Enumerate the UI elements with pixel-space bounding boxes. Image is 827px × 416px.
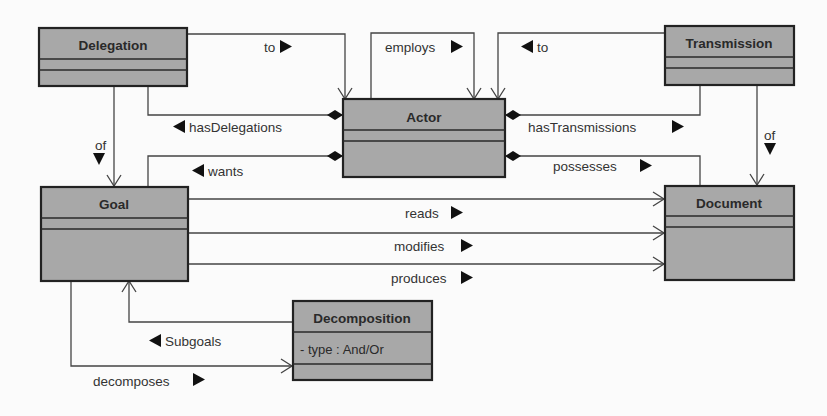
- direction-left-icon: [173, 120, 185, 133]
- direction-right-icon: [280, 40, 292, 53]
- class-actor[interactable]: Actor: [343, 99, 505, 177]
- class-name: Actor: [406, 110, 442, 125]
- edge-delegation-of-goal: of: [93, 86, 121, 186]
- edge-actor-wants: wants: [148, 151, 343, 186]
- class-goal[interactable]: Goal: [41, 187, 188, 281]
- edge-label: decomposes: [93, 374, 170, 389]
- edge-actor-hastransmissions: hasTransmissions: [505, 85, 700, 135]
- class-document[interactable]: Document: [665, 186, 794, 280]
- direction-right-icon: [461, 271, 473, 284]
- direction-right-icon: [451, 206, 463, 219]
- direction-down-icon: [93, 153, 105, 165]
- edge-label: modifies: [394, 239, 445, 254]
- class-name: Delegation: [78, 38, 147, 53]
- edge-label: Subgoals: [165, 334, 222, 349]
- class-name: Document: [696, 196, 763, 211]
- class-name: Decomposition: [313, 311, 411, 326]
- edge-actor-hasdelegations: hasDelegations: [148, 86, 343, 135]
- edge-label: to: [537, 40, 548, 55]
- direction-left-icon: [521, 40, 533, 53]
- edge-goal-reads-document: reads: [188, 192, 664, 221]
- edge-label: hasDelegations: [189, 120, 282, 135]
- direction-right-icon: [461, 239, 473, 252]
- direction-right-icon: [640, 159, 652, 172]
- class-name: Transmission: [685, 36, 772, 51]
- class-delegation[interactable]: Delegation: [39, 28, 187, 86]
- edge-label: employs: [385, 40, 436, 55]
- edge-label: reads: [405, 206, 439, 221]
- edge-goal-produces-document: produces: [188, 257, 664, 286]
- edge-label: produces: [391, 271, 447, 286]
- edge-goal-modifies-document: modifies: [188, 226, 664, 254]
- edge-transmission-of-document: of: [750, 85, 776, 185]
- edge-label: of: [95, 138, 107, 153]
- uml-class-diagram: Actor (top) --> to employs Actor --> to …: [0, 0, 827, 416]
- edge-decomposition-subgoals-goal: Subgoals: [122, 281, 292, 349]
- edge-actor-possesses: possesses: [505, 151, 700, 185]
- direction-left-icon: [192, 164, 204, 177]
- edge-label: of: [764, 128, 776, 143]
- direction-right-icon: [451, 40, 463, 53]
- class-attribute: - type : And/Or: [300, 342, 384, 357]
- edge-label: possesses: [553, 159, 617, 174]
- edge-label: hasTransmissions: [528, 120, 637, 135]
- direction-right-icon: [193, 373, 205, 386]
- direction-left-icon: [149, 334, 161, 347]
- direction-down-icon: [764, 143, 776, 155]
- edge-label: to: [264, 40, 275, 55]
- class-name: Goal: [99, 197, 129, 212]
- class-decomposition[interactable]: Decomposition - type : And/Or: [293, 301, 432, 380]
- class-transmission[interactable]: Transmission: [665, 26, 794, 85]
- edge-label: wants: [207, 164, 244, 179]
- edge-actor-employs-actor: employs: [371, 33, 481, 99]
- direction-right-icon: [672, 120, 684, 133]
- edge-transmission-to-actor: to: [491, 33, 664, 99]
- edge-delegation-to-actor: to: [187, 34, 352, 99]
